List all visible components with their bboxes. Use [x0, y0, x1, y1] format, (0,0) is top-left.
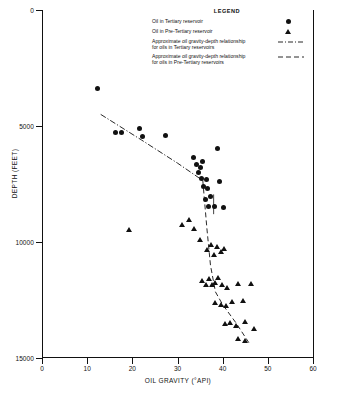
data-point-triangle [224, 285, 230, 290]
data-point-triangle [227, 320, 233, 325]
data-point-triangle [208, 242, 214, 247]
x-tick-label: 40 [219, 365, 226, 372]
data-point-triangle [212, 280, 218, 285]
data-point-triangle [197, 237, 203, 242]
legend-entry-label: Oil in Tertiary reservoir [152, 18, 270, 24]
x-tick-label: 20 [129, 365, 136, 372]
y-tick [36, 242, 42, 243]
y-tick [36, 10, 42, 11]
legend-dashed-line-icon [278, 53, 304, 61]
legend-entry-label: Approximate oil gravity-depth relationsh… [152, 53, 270, 65]
y-tick-label: 5000 [19, 123, 34, 130]
legend-triangle-icon [278, 28, 304, 36]
legend-dash-dot-line-icon [278, 38, 304, 46]
legend: LEGEND Oil in Tertiary reservoirOil in P… [152, 8, 312, 67]
data-point-triangle [233, 323, 239, 328]
x-tick [87, 358, 88, 364]
data-point-triangle [204, 247, 210, 252]
data-point-triangle [235, 336, 241, 341]
data-point-triangle [191, 226, 197, 231]
data-point-triangle [211, 252, 217, 257]
x-tick [132, 358, 133, 364]
x-tick-label: 50 [264, 365, 271, 372]
triangle-icon [285, 29, 291, 34]
data-point-triangle [229, 299, 235, 304]
data-point-circle [221, 205, 226, 210]
legend-entry-label: Approximate oil gravity-depth relationsh… [152, 38, 270, 50]
data-point-triangle [251, 326, 257, 331]
data-point-triangle [242, 319, 248, 324]
x-tick [42, 358, 43, 364]
y-tick-label: 10000 [15, 239, 34, 246]
right-axis-spine [313, 10, 314, 358]
data-point-triangle [206, 276, 212, 281]
data-point-triangle [179, 222, 185, 227]
data-point-triangle [215, 275, 221, 280]
data-point-triangle [126, 227, 132, 232]
legend-entry: Oil in Tertiary reservoir [152, 18, 312, 26]
data-point-circle [204, 177, 209, 182]
x-tick-label: 30 [174, 365, 181, 372]
x-tick [313, 358, 314, 364]
legend-entry: Approximate oil gravity-depth relationsh… [152, 53, 312, 65]
legend-entries: Oil in Tertiary reservoirOil in Pre-Tert… [152, 18, 312, 65]
x-tick [178, 358, 179, 364]
data-point-triangle [240, 298, 246, 303]
x-tick-label: 60 [309, 365, 316, 372]
data-point-circle [140, 134, 145, 139]
legend-title: LEGEND [142, 8, 312, 14]
data-point-triangle [186, 217, 192, 222]
y-tick [36, 126, 42, 127]
circle-icon [286, 19, 291, 24]
data-point-circle [212, 204, 217, 209]
x-tick [268, 358, 269, 364]
x-tick-label: 10 [84, 365, 91, 372]
data-point-circle [137, 126, 142, 131]
data-point-circle [206, 204, 211, 209]
data-point-triangle [214, 244, 220, 249]
y-axis-title: DEPTH (FEET) [11, 129, 18, 219]
legend-circle-icon [278, 18, 304, 26]
legend-entry-label: Oil in Pre-Tertiary reservoir [152, 28, 270, 34]
chart-root: 050001000015000 0102030405060 DEPTH (FEE… [0, 0, 338, 396]
data-point-triangle [235, 281, 241, 286]
legend-entry: Oil in Pre-Tertiary reservoir [152, 28, 312, 36]
y-tick-label: 0 [30, 7, 34, 14]
data-point-triangle [242, 338, 248, 343]
data-point-circle [196, 170, 201, 175]
x-tick-label: 0 [40, 365, 44, 372]
data-point-triangle [221, 246, 227, 251]
x-tick [223, 358, 224, 364]
x-axis-title: OIL GRAVITY (°API) [42, 377, 314, 384]
data-point-circle [215, 146, 220, 151]
legend-entry: Approximate oil gravity-depth relationsh… [152, 38, 312, 50]
data-point-triangle [248, 281, 254, 286]
y-tick-label: 15000 [15, 355, 34, 362]
